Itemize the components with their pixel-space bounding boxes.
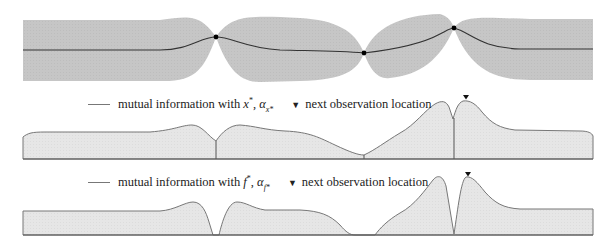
- triangle-down-icon: ▼: [291, 100, 300, 110]
- legend-label: mutual information with f*, αf*: [118, 174, 270, 192]
- observation-point: [452, 26, 457, 31]
- legend-next-label: next observation location: [302, 175, 428, 190]
- line-swatch-icon: [88, 104, 110, 105]
- legend-label: mutual information with x*, αx*: [118, 96, 273, 114]
- line-swatch-icon: [88, 182, 110, 183]
- triangle-down-icon: ▼: [288, 178, 297, 188]
- legend-mutual-info-x: mutual information with x*, αx* ▼ next o…: [88, 96, 432, 114]
- next-observation-triangle-icon: [465, 172, 471, 177]
- legend-next-label: next observation location: [305, 97, 431, 112]
- figure: [0, 0, 616, 249]
- next-observation-triangle-icon: [463, 95, 469, 100]
- observation-point: [214, 35, 219, 40]
- gp-posterior-panel: [23, 14, 593, 82]
- observation-point: [362, 51, 367, 56]
- legend-mutual-info-f: mutual information with f*, αf* ▼ next o…: [88, 174, 428, 192]
